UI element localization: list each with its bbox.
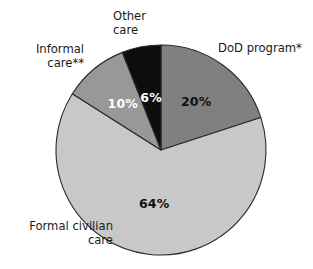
slice-callout-formal-civilian-care: Formal civilian care [0, 219, 113, 247]
pie-slice-value-label: 64% [139, 196, 170, 211]
slice-callout-dod-program: DoD program* [218, 41, 313, 55]
pie-slice-value-label: 20% [181, 94, 212, 109]
pie-slice-value-label: 6% [140, 90, 162, 105]
pie-chart-figure: 20%64%10%6% Other care DoD program* Info… [0, 0, 313, 269]
slice-callout-other-care: Other care [113, 9, 183, 37]
pie-slice-value-label: 10% [108, 96, 139, 111]
slice-callout-informal-care: Informal care** [6, 42, 84, 70]
